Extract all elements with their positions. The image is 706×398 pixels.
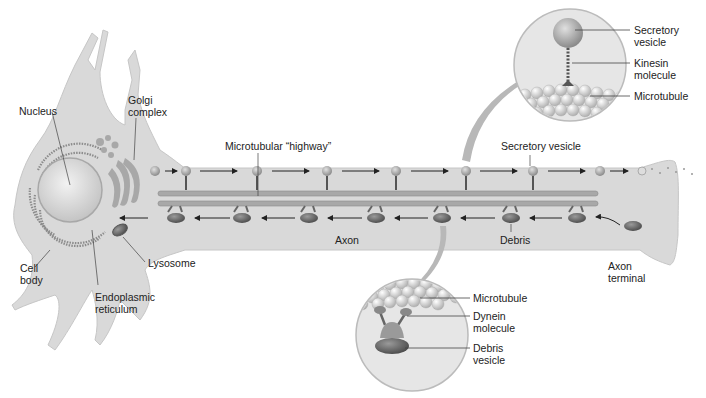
inset-top-label-microtubule: Microtubule (634, 90, 688, 102)
inset-bottom-label-dynein: Dynein molecule (473, 310, 515, 334)
label-endoplasmic-reticulum: Endoplasmic reticulum (95, 291, 155, 315)
inset-bottom-label-microtubule: Microtubule (473, 292, 527, 304)
label-axon: Axon (335, 234, 359, 246)
inset-kinesin (514, 9, 630, 121)
label-secretory-vesicle: Secretory vesicle (501, 140, 581, 152)
label-golgi-complex: Golgi complex (128, 94, 167, 118)
label-debris: Debris (500, 234, 530, 246)
label-lysosome: Lysosome (148, 257, 195, 269)
label-microtubular-highway: Microtubular “highway” (225, 140, 331, 152)
label-cell-body: Cell body (20, 262, 43, 286)
inset-dynein (356, 277, 470, 391)
inset-top-label-kinesin: Kinesin molecule (634, 57, 676, 81)
inset-bottom-label-debris-vesicle: Debris vesicle (473, 342, 505, 366)
neuron-diagram (0, 0, 706, 398)
label-axon-terminal: Axon terminal (608, 260, 645, 284)
nucleus (38, 158, 102, 222)
label-nucleus: Nucleus (19, 105, 57, 117)
inset-top-label-secretory-vesicle: Secretory vesicle (634, 24, 679, 48)
